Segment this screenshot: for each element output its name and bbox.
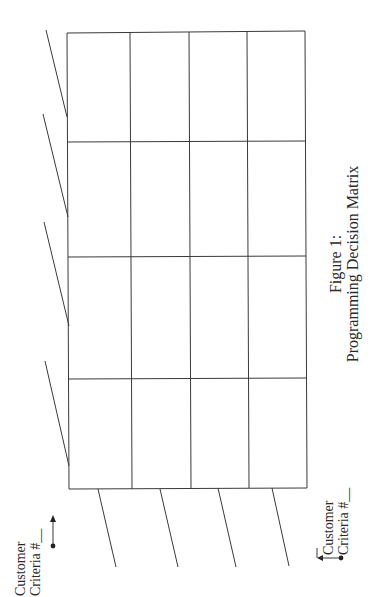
row-criteria-label-line2: Criteria #__ bbox=[29, 529, 44, 596]
row-criteria-label: Customer Criteria #__ bbox=[14, 529, 43, 596]
row-divider bbox=[67, 141, 305, 142]
column-header-slant-line bbox=[218, 488, 236, 567]
row-header-slant-line bbox=[43, 114, 68, 217]
figure-caption-title: Programming Decision Matrix bbox=[345, 144, 362, 384]
criteria-arrow-dot-icon bbox=[51, 544, 56, 549]
row-divider bbox=[69, 378, 306, 379]
decision-matrix-figure: Customer Criteria #__ Customer Criteria … bbox=[0, 0, 377, 597]
column-header-slant-line bbox=[272, 488, 289, 566]
matrix-outer-border bbox=[67, 31, 307, 489]
column-divider bbox=[189, 32, 191, 488]
column-criteria-label-line1: Customer bbox=[322, 488, 337, 555]
column-criteria-label-line2: Criteria #__ bbox=[337, 488, 352, 555]
column-criteria-label: Customer Criteria #__ bbox=[322, 488, 351, 555]
row-header-slant-line bbox=[45, 361, 69, 466]
row-header-slant-line bbox=[44, 222, 69, 326]
row-criteria-label-line1: Customer bbox=[14, 529, 29, 596]
figure-caption-number: Figure 1: bbox=[328, 144, 345, 384]
column-divider bbox=[130, 32, 132, 489]
row-divider bbox=[68, 256, 306, 257]
column-header-slant-line bbox=[98, 489, 116, 567]
column-divider bbox=[247, 31, 249, 488]
criteria-arrow-head-icon bbox=[50, 515, 56, 522]
column-header-slant-line bbox=[160, 489, 178, 567]
figure-caption: Figure 1: Programming Decision Matrix bbox=[328, 144, 362, 384]
row-header-slant-line bbox=[46, 30, 67, 117]
